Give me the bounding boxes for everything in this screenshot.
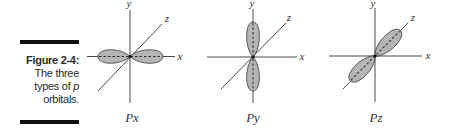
px-y-label: y	[126, 0, 132, 9]
py-orbital-label: Py	[245, 110, 260, 125]
px-x-label: x	[177, 50, 183, 62]
py-z-label: z	[286, 11, 292, 23]
orbital-diagrams: y z x Px y z x Py	[0, 0, 451, 136]
py-orbital-diagram: y z x Py	[207, 0, 305, 125]
px-orbital-diagram: y z x Px	[87, 0, 183, 125]
px-z-label: z	[164, 12, 170, 24]
pz-nucleus	[373, 54, 376, 57]
pz-orbital-diagram: y z x Pz	[329, 0, 431, 125]
px-nucleus	[128, 55, 131, 58]
pz-z-label: z	[410, 11, 416, 23]
figure-canvas: Figure 2-4: The three types of p orbital…	[0, 0, 451, 136]
py-x-label: x	[299, 50, 305, 62]
pz-orbital-label: Pz	[369, 110, 383, 125]
py-y-label: y	[249, 0, 255, 9]
px-orbital-label: Px	[124, 110, 139, 125]
py-nucleus	[251, 55, 254, 58]
pz-y-label: y	[370, 0, 376, 9]
pz-x-label: x	[425, 49, 431, 61]
